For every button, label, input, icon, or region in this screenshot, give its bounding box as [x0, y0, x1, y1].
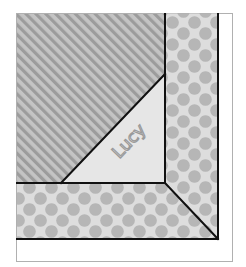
quilt-corner-diagram: Lucy: [0, 0, 246, 267]
